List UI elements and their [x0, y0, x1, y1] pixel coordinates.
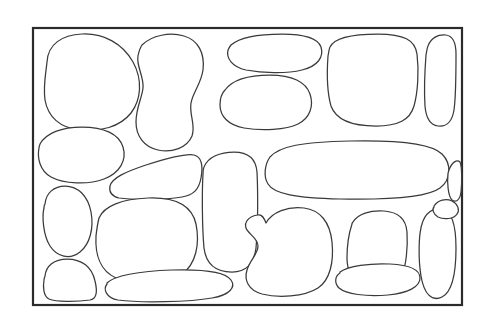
stone-16 — [419, 209, 456, 299]
stone-04 — [220, 75, 312, 130]
stone-06 — [425, 35, 456, 126]
stone-02 — [136, 34, 203, 151]
stone-wall-drawing — [0, 0, 480, 329]
stone-03 — [228, 34, 322, 73]
stone-05 — [327, 34, 418, 126]
stone-20 — [433, 200, 458, 219]
stone-07 — [38, 127, 124, 183]
stone-09 — [202, 152, 257, 272]
stone-19 — [336, 264, 420, 296]
stone-11 — [448, 161, 462, 201]
stone-10 — [265, 141, 449, 199]
artboard — [0, 0, 480, 329]
stone-12 — [43, 186, 92, 257]
stone-14 — [246, 208, 333, 297]
